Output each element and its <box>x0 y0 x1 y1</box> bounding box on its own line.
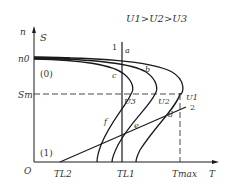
n0-tick-label: n0 <box>18 54 30 64</box>
point-e-label: e <box>134 121 139 130</box>
n0-band <box>34 58 70 59</box>
curve-u2-label: U2 <box>158 97 170 106</box>
point-b-label: b <box>145 65 150 74</box>
line-1-label: 1 <box>112 43 117 52</box>
point-a-label: a <box>125 46 130 55</box>
region-1-label: (1) <box>40 148 53 158</box>
line-2-label: 2 <box>190 103 195 112</box>
x-axis-arrow-icon <box>212 160 219 164</box>
region-0-label: (0) <box>40 69 53 79</box>
curve-u1-label: U1 <box>186 93 198 102</box>
y-axis-label-s: S <box>40 32 47 43</box>
point-d-label: d <box>168 110 173 119</box>
curve-u3-label: U3 <box>124 97 136 106</box>
point-f-label: f <box>103 117 109 126</box>
y-axis-arrow-icon <box>32 26 36 33</box>
curve-u1 <box>34 57 183 162</box>
diagram-title: U1>U2>U3 <box>126 13 187 24</box>
tl1-tick-label: TL1 <box>117 169 135 179</box>
sm-tick-label: Sm <box>18 90 33 100</box>
tl2-tick-label: TL2 <box>54 169 72 179</box>
origin-label: O <box>24 166 32 176</box>
y-axis-label-n: n <box>20 27 26 37</box>
motor-characteristic-diagram: U1>U2>U3 n S n0 Sm (0) (1) O TL2 TL1 Tma… <box>0 0 236 185</box>
point-c-label: c <box>112 71 117 80</box>
x-axis-label: T <box>209 169 216 179</box>
tmax-tick-label: Tmax <box>172 169 197 179</box>
